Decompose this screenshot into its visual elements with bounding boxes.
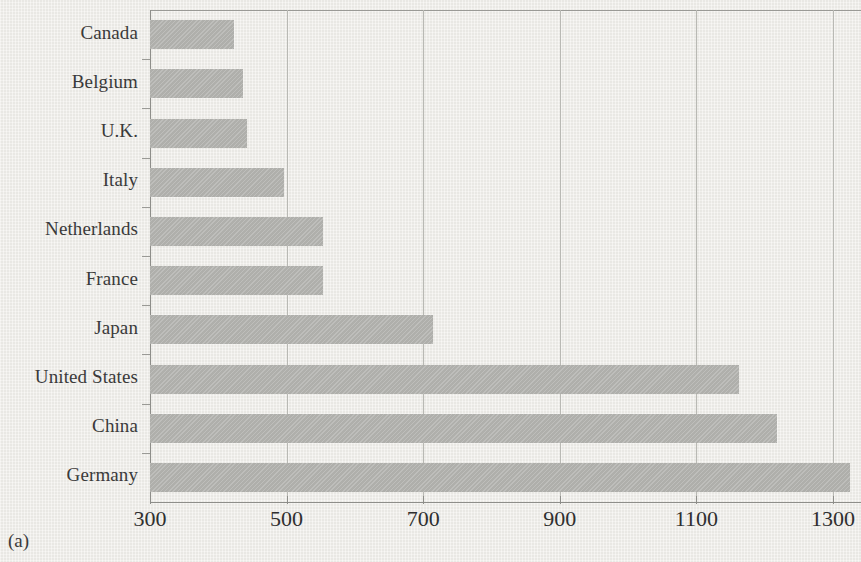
bar [150,365,739,394]
category-label: Netherlands [0,218,138,240]
y-tick-mark [142,59,150,60]
category-label: Japan [0,317,138,339]
x-tick-label: 700 [407,506,440,532]
figure-panel: CanadaBelgiumU.K.ItalyNetherlandsFranceJ… [0,0,861,562]
x-tick-label: 300 [134,506,167,532]
bar [150,69,243,98]
bar [150,315,433,344]
y-tick-mark [142,256,150,257]
category-label: Belgium [0,71,138,93]
y-tick-mark [142,207,150,208]
bar [150,463,850,492]
y-tick-mark [142,108,150,109]
y-tick-mark [142,305,150,306]
category-label: U.K. [0,120,138,142]
category-label: China [0,415,138,437]
x-tick-label: 1100 [675,506,718,532]
category-label: Italy [0,169,138,191]
bar [150,414,777,443]
category-label: Germany [0,464,138,486]
bar [150,119,247,148]
x-tick-label: 1300 [811,506,855,532]
x-axis-line [150,502,861,503]
category-label: Canada [0,22,138,44]
x-tick-label: 900 [543,506,576,532]
bar [150,168,284,197]
bar [150,20,234,49]
category-label: France [0,268,138,290]
bar [150,266,323,295]
plot-area [150,10,861,502]
panel-caption: (a) [8,530,29,552]
x-tick-label: 500 [270,506,303,532]
y-tick-mark [142,158,150,159]
y-tick-mark [142,453,150,454]
bar [150,217,323,246]
category-label: United States [0,366,138,388]
y-tick-mark [142,354,150,355]
y-tick-mark [142,404,150,405]
